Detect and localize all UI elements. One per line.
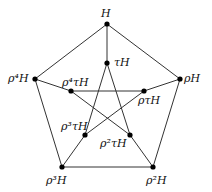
node-label-r4tH: ρ⁴τH (62, 77, 89, 88)
edge-rH-rtH (144, 79, 180, 91)
edge-r3H-r3tH (62, 135, 85, 167)
node-label-r3H: ρ³H (46, 175, 66, 186)
node-label-rH: ρH (184, 73, 200, 84)
node-rH (177, 76, 182, 81)
node-label-rtH: ρτH (138, 95, 160, 106)
node-r2H (150, 164, 155, 169)
edge-r2H-r2tH (130, 135, 153, 167)
node-label-r2H: ρ²H (146, 175, 166, 186)
edge-r3H-r4H (35, 79, 62, 167)
node-label-H: H (101, 8, 111, 19)
node-tH (104, 60, 109, 65)
petersen-graph (0, 0, 212, 192)
node-label-r3tH: ρ³τH (61, 121, 88, 132)
node-r2tH (127, 132, 132, 137)
edge-r4H-H (35, 24, 107, 79)
edge-rH-r2H (153, 79, 180, 167)
edge-tH-r3tH (85, 63, 107, 135)
node-r4tH (68, 88, 73, 93)
edge-tH-r2tH (107, 63, 130, 135)
node-rtH (141, 88, 146, 93)
node-r3H (59, 164, 64, 169)
node-r3tH (82, 132, 87, 137)
node-label-r2tH: ρ²τH (100, 138, 127, 149)
node-label-tH: τH (114, 57, 130, 68)
edge-rtH-r3tH (85, 91, 144, 135)
node-r4H (32, 76, 37, 81)
edge-H-rH (107, 24, 180, 79)
node-H (104, 21, 109, 26)
node-label-r4H: ρ⁴H (8, 73, 28, 84)
